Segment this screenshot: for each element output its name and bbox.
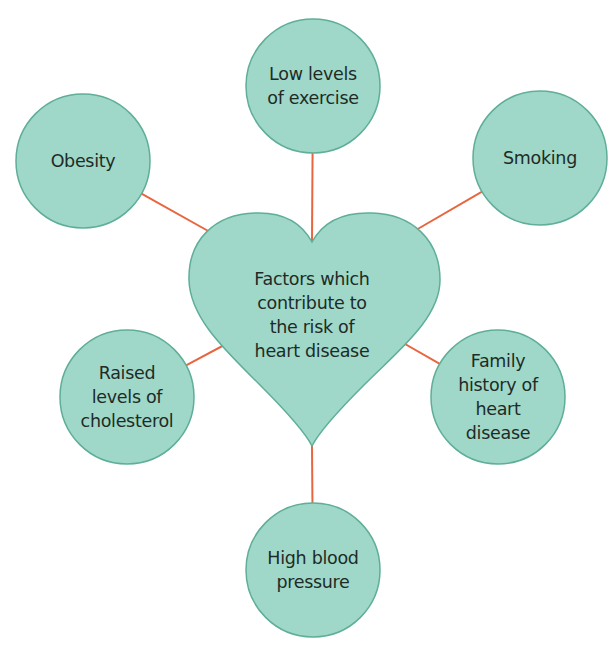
factor-label-blood-pressure: High blood pressure — [251, 510, 375, 630]
factor-label-cholesterol: Raised levels of cholesterol — [65, 337, 189, 457]
factor-label-family-history: Family history of heart disease — [436, 337, 560, 457]
connector-obesity — [141, 194, 210, 232]
connector-exercise — [312, 153, 313, 242]
factor-label-exercise: Low levels of exercise — [251, 26, 375, 146]
connector-smoking — [416, 192, 482, 230]
factor-label-obesity: Obesity — [21, 101, 145, 221]
factor-label-smoking: Smoking — [478, 98, 602, 218]
center-label: Factors which contribute to the risk of … — [222, 255, 402, 375]
